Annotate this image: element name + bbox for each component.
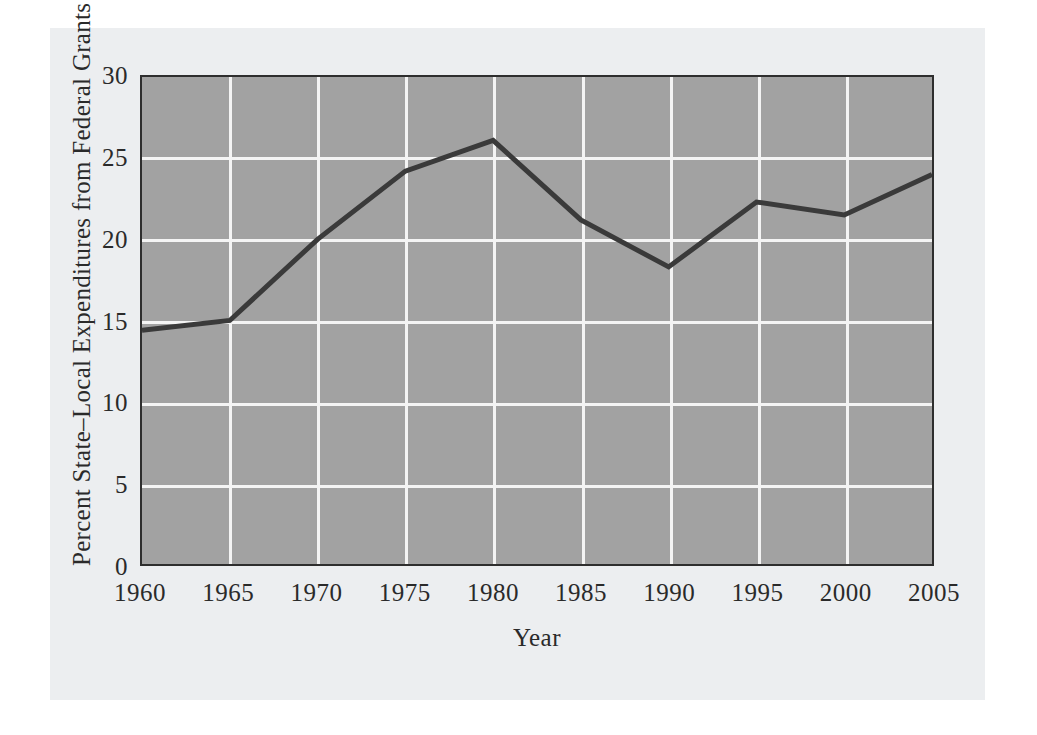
x-tick-label: 1995 — [732, 580, 784, 605]
x-tick-label: 1975 — [379, 580, 431, 605]
x-tick-label: 2000 — [820, 580, 872, 605]
data-line-layer — [142, 77, 932, 564]
y-axis-label: Percent State–Local Expenditures from Fe… — [68, 75, 98, 566]
x-axis-ticks: 1960196519701975198019851990199520002005 — [140, 580, 934, 614]
x-axis-label: Year — [140, 624, 934, 652]
x-tick-label: 1965 — [202, 580, 254, 605]
data-series-line — [142, 140, 932, 330]
x-tick-label: 1985 — [555, 580, 607, 605]
figure-panel: 051015202530 196019651970197519801985199… — [50, 28, 985, 700]
line-chart: 051015202530 196019651970197519801985199… — [50, 28, 985, 700]
x-tick-label: 1960 — [114, 580, 166, 605]
x-tick-label: 2005 — [908, 580, 960, 605]
plot-area — [140, 75, 934, 566]
x-tick-label: 1970 — [290, 580, 342, 605]
x-tick-label: 1980 — [467, 580, 519, 605]
x-tick-label: 1990 — [643, 580, 695, 605]
